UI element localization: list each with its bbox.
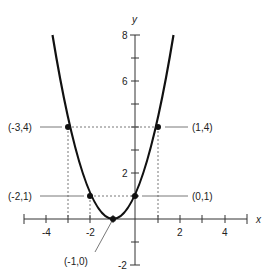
x-tick-label: -4	[42, 227, 51, 238]
parabola-chart: y x -4 -2 2 4 8 6 2 -2 (-3,4) (1,4) (-2,…	[0, 0, 272, 280]
y-axis-label: y	[131, 14, 138, 25]
y-axis	[130, 35, 140, 265]
point-label: (0,1)	[192, 191, 213, 202]
x-axis-label: x	[255, 214, 262, 225]
point-m1-0	[110, 216, 116, 222]
guide-lines	[68, 127, 158, 219]
x-tick-label: 2	[177, 227, 183, 238]
leader-lines	[40, 127, 188, 252]
y-tick-label: 6	[122, 76, 128, 87]
x-tick-label: -2	[86, 227, 95, 238]
point-0-1	[132, 193, 138, 199]
data-points	[65, 124, 161, 222]
point-label: (-1,0)	[64, 256, 88, 267]
point-1-4	[155, 124, 161, 130]
point-m3-4	[65, 124, 71, 130]
y-tick-label: 8	[122, 30, 128, 41]
point-label: (-3,4)	[8, 122, 32, 133]
point-label: (1,4)	[192, 122, 213, 133]
y-tick-label: 2	[122, 168, 128, 179]
point-m2-1	[87, 193, 93, 199]
point-label: (-2,1)	[8, 191, 32, 202]
x-tick-label: 4	[222, 227, 228, 238]
y-tick-label: -2	[118, 260, 127, 271]
